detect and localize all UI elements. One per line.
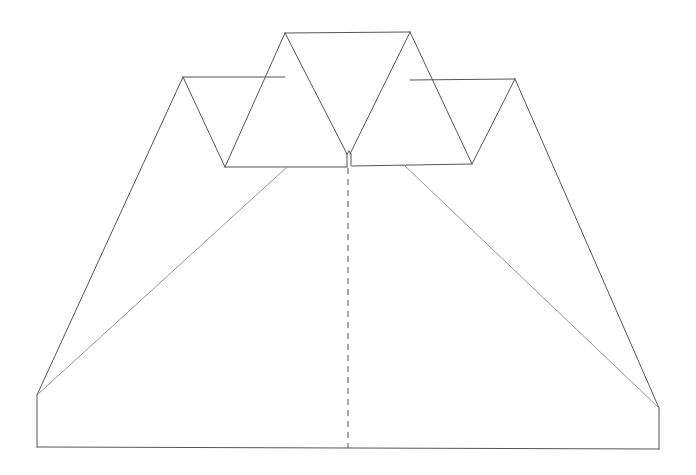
outer-edge bbox=[285, 32, 410, 33]
triangle-edges bbox=[183, 32, 515, 167]
triangle-edge bbox=[410, 32, 472, 164]
triangle-edge bbox=[225, 33, 285, 167]
fold-diagram bbox=[0, 0, 696, 475]
outer-edge bbox=[410, 79, 515, 80]
diagonal-fold bbox=[37, 167, 287, 395]
triangle-edge bbox=[350, 32, 410, 154]
base-edge bbox=[352, 164, 472, 166]
outer-edges bbox=[37, 32, 659, 449]
triangle-edge bbox=[285, 33, 347, 154]
base-edges bbox=[225, 164, 472, 167]
triangle-edge bbox=[183, 77, 225, 167]
diagonal-fold bbox=[404, 165, 659, 408]
outer-edge bbox=[37, 77, 183, 395]
outer-edge bbox=[515, 79, 659, 408]
center-notch bbox=[347, 151, 351, 167]
triangle-edge bbox=[472, 79, 515, 164]
